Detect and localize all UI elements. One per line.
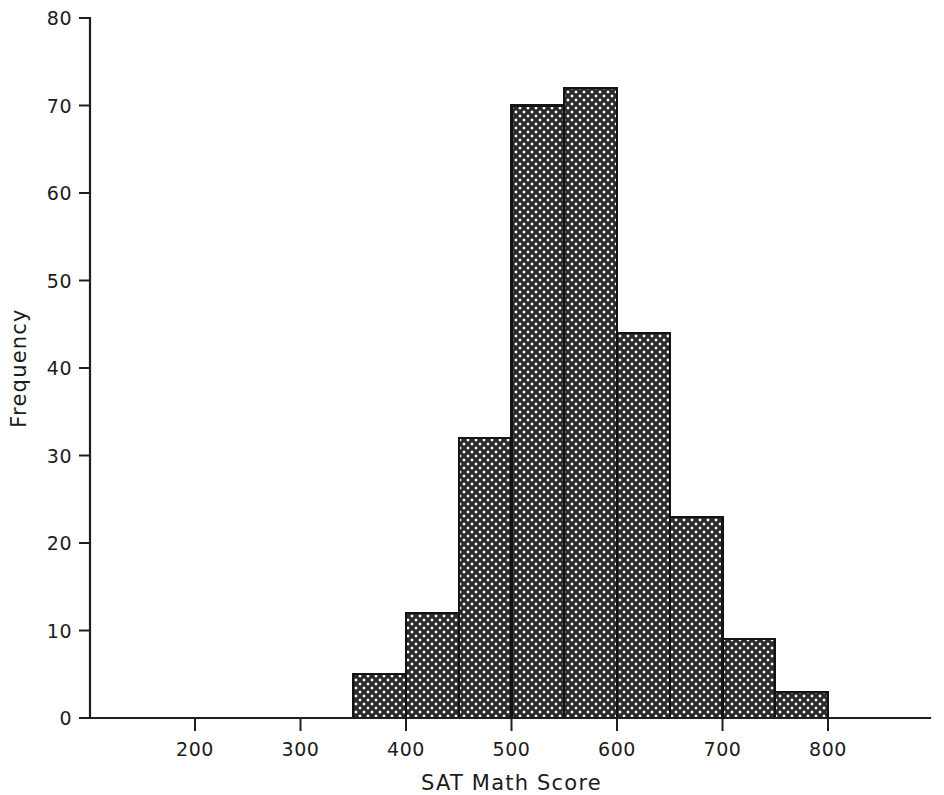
y-tick-label: 50: [47, 270, 72, 292]
x-tick-label: 500: [493, 738, 531, 760]
bars-layer: [353, 88, 828, 718]
histogram-bar: [406, 613, 459, 718]
x-axis-title: SAT Math Score: [421, 771, 602, 795]
histogram-figure: 01020304050607080200300400500600700800SA…: [0, 0, 944, 795]
y-tick-label: 40: [47, 357, 72, 379]
x-tick-label: 300: [282, 738, 320, 760]
histogram-bar: [564, 88, 617, 718]
histogram-bar: [723, 639, 776, 718]
y-tick-label: 0: [59, 707, 72, 729]
x-tick-label: 600: [598, 738, 636, 760]
y-tick-label: 10: [47, 620, 72, 642]
y-tick-label: 20: [47, 532, 72, 554]
histogram-bar: [512, 106, 565, 719]
x-tick-label: 700: [704, 738, 742, 760]
histogram-bar: [459, 438, 512, 718]
x-tick-label: 200: [176, 738, 214, 760]
histogram-bar: [670, 517, 723, 718]
x-tick-label: 400: [387, 738, 425, 760]
y-tick-label: 30: [47, 445, 72, 467]
y-tick-label: 60: [47, 182, 72, 204]
y-tick-label: 70: [47, 95, 72, 117]
histogram-bar: [775, 692, 828, 718]
sat-math-score-histogram: 01020304050607080200300400500600700800SA…: [0, 0, 944, 795]
histogram-bar: [617, 333, 670, 718]
y-tick-label: 80: [47, 7, 72, 29]
x-tick-label: 800: [809, 738, 847, 760]
histogram-bar: [353, 674, 406, 718]
y-axis-title: Frequency: [7, 308, 31, 427]
